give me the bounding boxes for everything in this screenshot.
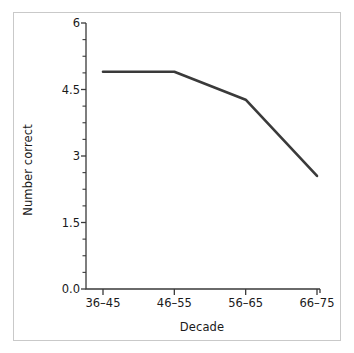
figure: 64.531.50.0 36–4546–5556–6566–75 Number …: [0, 0, 354, 353]
chart-axes: [81, 23, 320, 295]
line-chart-plot: [0, 0, 354, 353]
data-line-series: [103, 72, 317, 176]
